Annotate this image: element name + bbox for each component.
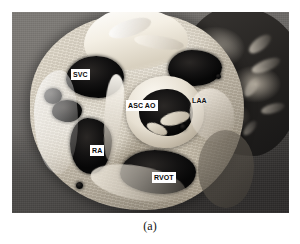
figure-caption: (a) [0,219,300,234]
label-rvot: RVOT [152,172,176,183]
figure-root: SVC ASC AO LAA RA RVOT (a) [0,0,300,244]
label-svc: SVC [71,69,90,80]
label-ra: RA [90,145,104,156]
coronary-ostium-dot-2 [180,124,186,130]
anatomical-photograph: SVC ASC AO LAA RA RVOT [12,12,289,213]
label-asc-ao: ASC AO [126,100,158,111]
label-laa: LAA [190,95,209,106]
heart-specimen [30,14,244,210]
coronary-ostium-dot-3 [216,74,221,79]
coronary-ostium-dot-1 [76,182,83,189]
